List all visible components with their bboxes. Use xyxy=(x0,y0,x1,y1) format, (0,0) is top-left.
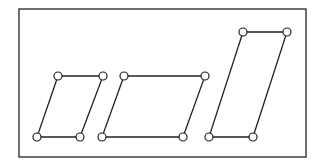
vertex-node xyxy=(283,28,291,36)
vertex-node xyxy=(201,72,209,80)
vertex-node xyxy=(76,133,84,141)
parallelogram-outline xyxy=(209,32,287,137)
vertex-node xyxy=(98,133,106,141)
vertex-node xyxy=(249,133,257,141)
outer-frame xyxy=(19,9,306,157)
vertex-node xyxy=(120,72,128,80)
vertex-node xyxy=(239,28,247,36)
parallelogram-small xyxy=(33,72,107,141)
vertex-node xyxy=(99,72,107,80)
parallelogram-tall xyxy=(205,28,291,141)
parallelogram-outline xyxy=(37,76,103,137)
parallelogram-group xyxy=(33,28,291,141)
vertex-node xyxy=(54,72,62,80)
parallelogram-outline xyxy=(102,76,205,137)
vertex-node xyxy=(179,133,187,141)
parallelogram-wide xyxy=(98,72,209,141)
vertex-node xyxy=(33,133,41,141)
diagram-canvas xyxy=(0,0,322,165)
vertex-node xyxy=(205,133,213,141)
